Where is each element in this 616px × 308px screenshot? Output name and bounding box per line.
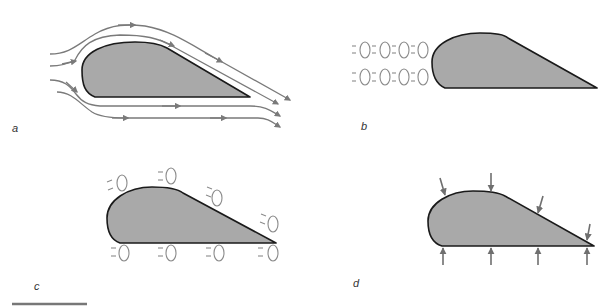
panel-d: d	[353, 173, 594, 289]
molecule	[411, 69, 428, 85]
flow-arrow	[205, 53, 222, 62]
flow-arrow	[62, 61, 76, 64]
panel-a: a	[12, 25, 290, 134]
molecule	[352, 69, 370, 85]
molecule	[411, 42, 428, 58]
airfoil-d	[428, 191, 594, 246]
molecule	[372, 69, 390, 85]
airfoil-b	[432, 33, 597, 88]
molecule-bottom	[111, 245, 129, 261]
airfoil-figure: a	[0, 0, 616, 308]
pressure-arrow-top	[587, 224, 590, 240]
molecule-bottom	[158, 245, 176, 261]
molecule	[352, 42, 370, 58]
molecule-top	[107, 175, 127, 191]
molecule-row-top	[352, 42, 428, 58]
molecule-top	[206, 187, 222, 206]
molecule-top	[158, 168, 176, 184]
molecule-bottom	[206, 245, 224, 261]
panel-label-b: b	[361, 120, 367, 132]
molecule-top	[260, 214, 278, 232]
pressure-arrow-top	[538, 196, 543, 213]
flow-arrow	[66, 82, 77, 92]
panel-c: c	[34, 168, 278, 292]
panel-b: b	[352, 33, 597, 132]
panel-label-d: d	[353, 277, 360, 289]
molecule-row-bottom	[352, 69, 428, 85]
molecule-bottom	[258, 245, 278, 261]
pressure-arrow-top	[440, 178, 445, 195]
panel-label-a: a	[12, 122, 18, 134]
airfoil-a	[82, 42, 250, 97]
panel-label-c: c	[34, 280, 40, 292]
molecule	[392, 69, 409, 85]
molecule	[392, 42, 409, 58]
molecule	[372, 42, 390, 58]
airfoil-c	[107, 187, 276, 243]
